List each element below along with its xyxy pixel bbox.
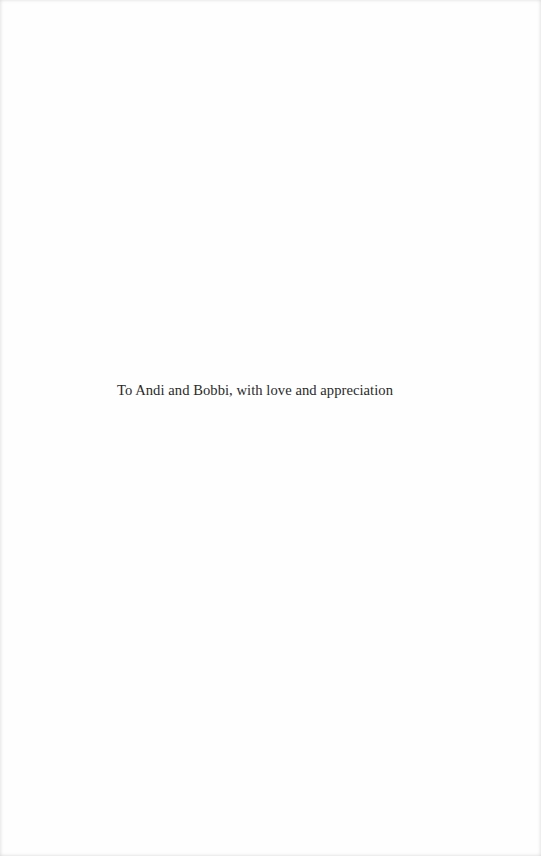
book-page: To Andi and Bobbi, with love and appreci… [0,0,541,856]
dedication-text: To Andi and Bobbi, with love and appreci… [117,381,393,399]
